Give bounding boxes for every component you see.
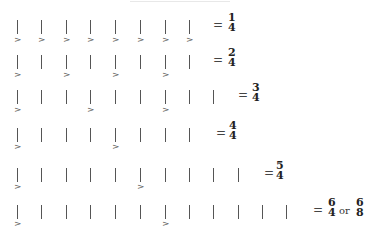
note-stem-icon (66, 168, 67, 182)
note-stem-icon (262, 205, 263, 219)
note-stem-icon (115, 205, 116, 219)
beat-note (282, 205, 292, 237)
accent-mark-icon: > (162, 71, 170, 78)
beat-note (209, 90, 219, 126)
beat-note (37, 128, 47, 164)
beat-note (62, 168, 72, 204)
accent-mark-icon: > (112, 36, 120, 43)
meter-row-row-1-4: >>>>>>>>=14 (0, 20, 367, 56)
beat-note (62, 128, 72, 164)
time-signature-fraction: 24 (228, 48, 236, 68)
note-stem-icon (140, 168, 141, 182)
note-stem-icon (165, 168, 166, 182)
beat-note: > (86, 20, 96, 56)
beat-note (111, 90, 121, 126)
note-stem-icon (90, 20, 91, 34)
equals-sign: = (313, 203, 323, 217)
fraction-denominator: 4 (229, 131, 237, 141)
note-stem-icon (66, 90, 67, 104)
note-stem-icon (41, 90, 42, 104)
accent-mark-icon: > (38, 36, 46, 43)
beat-note: > (185, 20, 195, 56)
or-connector: or (339, 205, 350, 217)
note-stem-icon (213, 168, 214, 182)
note-stem-icon (17, 20, 18, 34)
beat-note (161, 168, 171, 204)
accent-mark-icon: > (14, 71, 22, 78)
note-stem-icon (17, 205, 18, 219)
note-stem-icon (140, 128, 141, 142)
note-stem-icon (17, 55, 18, 69)
beat-note (234, 205, 244, 237)
beat-note (86, 128, 96, 164)
beat-note: > (161, 20, 171, 56)
beat-note: > (62, 20, 72, 56)
fraction-denominator: 4 (328, 208, 336, 218)
equals-sign: = (238, 88, 248, 102)
beat-note: > (111, 20, 121, 56)
beat-note (37, 55, 47, 91)
beat-note: > (13, 128, 23, 164)
beat-note (37, 205, 47, 237)
note-stem-icon (66, 128, 67, 142)
note-stem-icon (286, 205, 287, 219)
beat-note (62, 90, 72, 126)
beat-note: > (161, 55, 171, 91)
beat-note (161, 128, 171, 164)
accent-mark-icon: > (137, 184, 145, 191)
beat-note (136, 55, 146, 91)
beat-note: > (62, 55, 72, 91)
note-stem-icon (115, 128, 116, 142)
accent-mark-icon: > (162, 221, 170, 228)
time-signature-fraction: 14 (228, 13, 236, 33)
accent-mark-icon: > (14, 106, 22, 113)
beat-note (86, 205, 96, 237)
meter-row-row-4-4: >>=44 (0, 128, 367, 164)
beat-note: > (86, 90, 96, 126)
beat-note: > (13, 168, 23, 204)
fraction-denominator: 4 (252, 93, 260, 103)
accent-mark-icon: > (112, 71, 120, 78)
note-stem-icon (17, 128, 18, 142)
note-stem-icon (213, 90, 214, 104)
time-signature-fraction: 34 (252, 83, 260, 103)
note-stem-icon (189, 205, 190, 219)
fraction-denominator: 4 (228, 58, 236, 68)
beat-note (185, 128, 195, 164)
beat-note: > (161, 205, 171, 237)
note-stem-icon (90, 128, 91, 142)
beat-note (37, 90, 47, 126)
accent-mark-icon: > (14, 144, 22, 151)
note-stem-icon (115, 55, 116, 69)
note-stem-icon (165, 55, 166, 69)
note-stem-icon (140, 205, 141, 219)
meter-row-row-2-4: >>>>=24 (0, 55, 367, 91)
note-stem-icon (189, 90, 190, 104)
time-signature-fraction: 68 (356, 198, 364, 218)
note-stem-icon (90, 55, 91, 69)
accent-mark-icon: > (162, 106, 170, 113)
note-stem-icon (140, 90, 141, 104)
note-stem-icon (17, 168, 18, 182)
beat-note: > (13, 55, 23, 91)
beat-note: > (13, 205, 23, 237)
note-stem-icon (165, 20, 166, 34)
beat-note (111, 205, 121, 237)
meter-row-row-5-4: >>=54 (0, 168, 367, 204)
beat-note: > (136, 168, 146, 204)
note-stem-icon (165, 90, 166, 104)
note-stem-icon (189, 168, 190, 182)
accent-mark-icon: > (162, 36, 170, 43)
beat-note (62, 205, 72, 237)
beat-note (86, 55, 96, 91)
note-stem-icon (115, 90, 116, 104)
equals-sign: = (213, 18, 223, 32)
note-stem-icon (165, 128, 166, 142)
note-stem-icon (41, 55, 42, 69)
beat-note (136, 205, 146, 237)
accent-mark-icon: > (63, 71, 71, 78)
beat-note (258, 205, 268, 237)
note-stem-icon (17, 90, 18, 104)
equals-sign: = (216, 126, 226, 140)
beat-note (185, 168, 195, 204)
